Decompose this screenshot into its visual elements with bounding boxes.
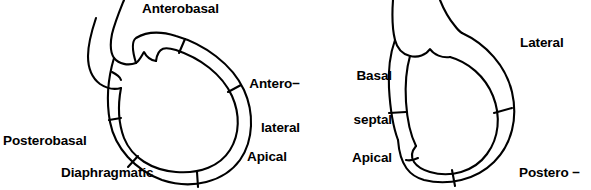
right-valve-notch — [410, 49, 450, 57]
left-divider-base-aortic — [112, 72, 121, 80]
left-divider-apical-diaphragmatic — [197, 172, 198, 187]
left-endocardial-border — [119, 48, 238, 172]
label-basal-septal-line1: Basal — [318, 69, 392, 84]
right-panel-group — [389, 0, 515, 186]
right-aortic-root-right — [440, 0, 462, 33]
label-postero-lateral: Postero − lateral — [519, 137, 591, 190]
label-anterolateral-line2: lateral — [222, 121, 300, 136]
label-lateral: Lateral — [520, 36, 564, 51]
left-aortic-root-inner — [88, 18, 121, 89]
left-valve-notch — [136, 52, 156, 63]
left-aortic-root-outer — [111, 0, 136, 64]
diagram-canvas: Anterobasal Antero− lateral Posterobasal… — [0, 0, 591, 190]
label-apical-septal-line1: Apical — [311, 151, 392, 166]
label-diaphragmatic: Diaphragmatic — [61, 166, 153, 181]
right-endocardial-border — [412, 57, 498, 174]
right-divider-posterolateral-apical — [452, 170, 455, 186]
label-anterolateral: Antero− lateral — [222, 48, 300, 164]
left-divider-anterobasal-anterolateral — [179, 39, 185, 53]
label-postero-lateral-line1: Postero − — [519, 166, 591, 181]
label-anterolateral-line1: Antero− — [222, 77, 300, 92]
label-anterobasal: Anterobasal — [142, 2, 219, 17]
label-apical: Apical — [247, 150, 287, 165]
right-septal-wall-inner — [406, 56, 416, 146]
label-apical-septal: Apical septal — [311, 122, 392, 190]
label-posterobasal: Posterobasal — [3, 134, 87, 149]
right-aortic-root-left — [392, 0, 410, 56]
